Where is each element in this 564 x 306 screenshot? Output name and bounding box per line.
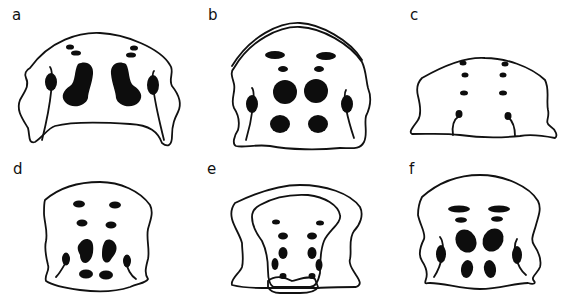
spot [73,201,85,208]
panel-c: c [380,0,564,153]
spot [278,66,288,72]
carapace-drawing-c [380,0,564,153]
spot [460,61,467,66]
panel-f: f [380,155,564,306]
spot [79,270,93,279]
outline-double-edge [232,23,362,66]
spot [502,62,509,67]
spot [316,259,323,271]
spot [45,73,57,91]
spot [451,226,480,257]
outline [411,58,557,138]
carapace-drawing-b [190,0,378,153]
spot [307,233,317,240]
spot [77,220,88,227]
spot [308,115,328,133]
spot [71,50,81,55]
spot [111,62,141,106]
spot [478,225,507,256]
spot [147,75,159,95]
spot [102,239,117,262]
spot [488,206,510,213]
spot [341,95,353,113]
spot [62,253,70,266]
spot [309,273,316,279]
spot [106,222,117,229]
panel-d: d [0,155,188,306]
spot [123,255,131,268]
spot [500,73,507,78]
spot [314,66,324,72]
spot [455,217,467,223]
spot [436,245,446,263]
outline [44,182,152,291]
spot [279,247,288,259]
spot [109,202,121,209]
panel-b: b [190,0,378,153]
spot [63,62,93,106]
spot [246,95,258,113]
spot [512,246,522,264]
carapace-drawing-a [0,0,188,153]
spot [316,52,336,60]
spot [462,73,469,78]
spot [270,115,290,133]
spot [273,80,297,104]
spot [460,91,468,96]
spot [316,221,324,226]
seam-right [508,117,515,136]
spot [483,259,498,279]
posterior-lobe [268,277,318,293]
carapace-drawing-f [380,155,564,306]
carapace-drawing-d [0,155,188,306]
spot [304,79,328,103]
spot [99,271,113,280]
spot [456,110,463,118]
outer-outline [231,185,361,288]
spot [448,206,470,213]
spot [272,258,279,270]
spot [66,44,74,49]
spot [280,273,287,279]
spot [308,247,317,259]
spot [126,52,136,57]
spot [130,45,138,50]
spot [460,259,475,279]
panel-e: e [190,155,378,306]
spot [272,220,280,225]
spot [265,51,285,59]
spot [505,112,512,120]
spot [278,233,288,240]
inner-plate [252,195,340,287]
spot [78,239,94,263]
carapace-drawing-e [190,155,378,306]
seam-left [453,116,459,135]
spot [499,91,507,96]
panel-a: a [0,0,188,153]
spot [491,216,503,222]
